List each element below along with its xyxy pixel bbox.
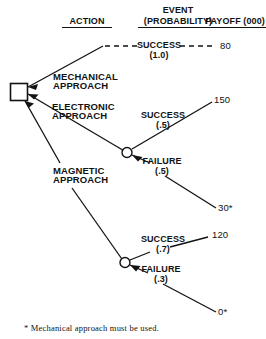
action-label-electronic-line2: APPROACH xyxy=(52,111,107,121)
probability-label-mech-success: (1.0) xyxy=(134,51,184,61)
figure-footnote: * Mechanical approach must be used. xyxy=(24,324,159,334)
chance-node-electronic xyxy=(122,148,132,158)
payoff-value-mag-failure: 0* xyxy=(218,307,227,317)
action-label-magnetic-line2: APPROACH xyxy=(53,175,108,185)
branch-line-magnetic-lower xyxy=(72,188,124,262)
decision-tree-figure: ACTION EVENT (PROBABILITY) PAYOFF (000) xyxy=(0,0,266,339)
decision-node-square xyxy=(11,84,28,101)
action-label-mechanical-line2: APPROACH xyxy=(53,81,108,91)
probability-label-elec-failure: (.5) xyxy=(139,167,185,177)
payoff-value-mag-success: 120 xyxy=(212,230,228,240)
probability-label-elec-success: (.5) xyxy=(139,121,187,131)
payoff-value-elec-failure: 30* xyxy=(218,203,233,213)
probability-label-mag-failure: (.3) xyxy=(138,275,184,285)
payoff-value-elec-success: 150 xyxy=(214,95,230,105)
outcome-line-elec-failure-tail xyxy=(165,176,216,208)
outcome-line-mag-failure-tail xyxy=(163,284,216,312)
payoff-value-mech-success: 80 xyxy=(220,41,231,51)
probability-label-mag-success: (.7) xyxy=(139,245,187,255)
chance-node-magnetic xyxy=(120,258,130,268)
